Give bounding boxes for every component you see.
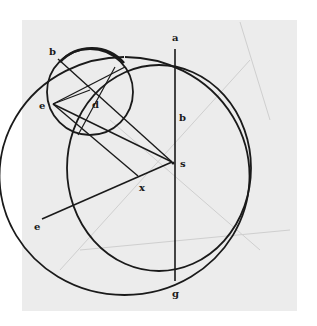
- label-g: g: [172, 289, 179, 299]
- label-e-upper: e: [39, 101, 45, 111]
- label-b-mid: b: [179, 113, 186, 123]
- label-d: d: [92, 100, 99, 110]
- outer-circle: [0, 57, 249, 295]
- line-b-s: [58, 59, 172, 162]
- line-e-x: [53, 104, 138, 176]
- label-x: x: [139, 183, 145, 193]
- line-e-d: [53, 90, 90, 104]
- line-lower-e-s: [42, 162, 172, 219]
- point-s: [172, 162, 175, 165]
- label-b-top: b: [49, 47, 56, 57]
- geometric-diagram: [0, 0, 317, 326]
- label-s: s: [180, 159, 186, 169]
- label-e-lower: e: [34, 222, 40, 232]
- line-e-s: [53, 104, 172, 162]
- label-a: a: [172, 33, 178, 43]
